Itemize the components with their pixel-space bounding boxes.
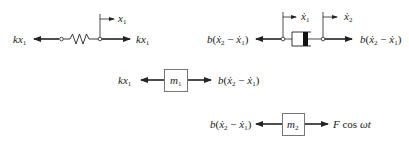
spring-right-node [98,37,102,41]
mass-2-right-force-label: F cos ωt [332,118,372,130]
spring-element: kx1 x1 kx1 [13,12,150,47]
damper-element: b(ẋ2 − ẋ1) ẋ1 ẋ2 b(ẋ2 − ẋ1) [207,10,402,47]
mass-1-left-force-label: kx1 [118,74,132,88]
damper-icon [292,32,321,46]
free-body-diagram: kx1 x1 kx1 b(ẋ2 − ẋ1) ẋ1 ẋ2 b(ẋ2 − ẋ1) k… [0,0,409,144]
spring-left-node [60,37,64,41]
velocity-left-label: ẋ1 [300,10,310,24]
mass-2-left-force-label: b(ẋ2 − ẋ1) [210,118,252,132]
damper-left-node [281,37,285,41]
damper-right-node [321,37,325,41]
spring-icon [64,34,99,44]
damper-left-force-label: b(ẋ2 − ẋ1) [207,33,249,47]
spring-right-force-label: kx1 [136,33,150,47]
displacement-label: x1 [117,12,127,26]
mass-1-right-force-label: b(ẋ2 − ẋ1) [218,74,260,88]
damper-right-force-label: b(ẋ2 − ẋ1) [360,33,402,47]
mass-2-free-body: b(ẋ2 − ẋ1) m2 F cos ωt [210,114,372,136]
mass-1-free-body: kx1 m1 b(ẋ2 − ẋ1) [118,70,260,92]
spring-left-force-label: kx1 [13,33,27,47]
velocity-right-label: ẋ2 [343,10,353,24]
